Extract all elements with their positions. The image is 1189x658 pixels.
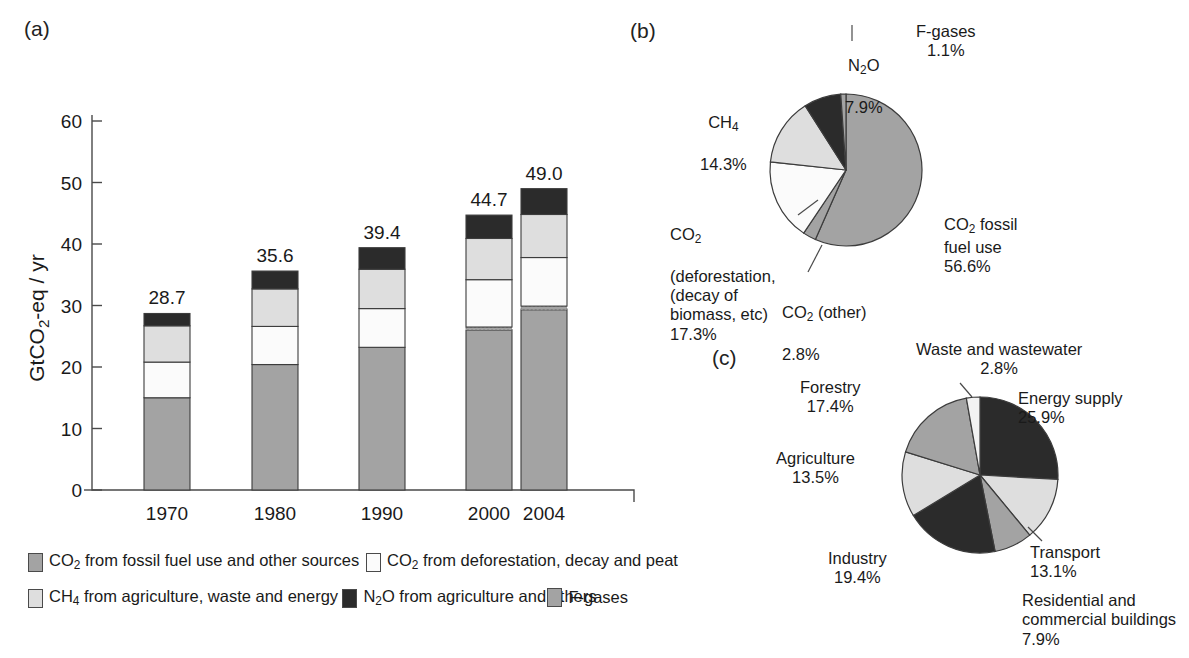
- legend-swatch-n2o: [342, 589, 357, 608]
- bar-chart-svg: 0102030405060 28.7197035.6198039.4199044…: [0, 0, 650, 540]
- y-tick-label: 40: [61, 234, 82, 255]
- bar-chart-bars: [144, 189, 567, 490]
- bar-segment: [466, 238, 512, 279]
- pie-c-label-transport: Transport 13.1%: [1030, 543, 1100, 582]
- y-tick-label: 20: [61, 357, 82, 378]
- pie-b-other-formula: CO2 (other): [782, 303, 867, 321]
- bar-total-label: 35.6: [257, 245, 294, 266]
- y-tick-label: 50: [61, 173, 82, 194]
- bar-segment: [466, 330, 512, 490]
- pie-b-defor-formula: CO2: [670, 225, 701, 243]
- bar-segment: [466, 280, 512, 327]
- leader-line-waste: [960, 383, 972, 397]
- pie-c-label-energy-supply: Energy supply 25.9%: [1018, 389, 1123, 428]
- legend-label-co2-fossil: CO2 from fossil fuel use and other sourc…: [49, 552, 359, 572]
- bar-total-label: 44.7: [471, 189, 508, 210]
- pie-c-label-industry: Industry 19.4%: [828, 549, 887, 588]
- bar-segment: [144, 362, 190, 398]
- legend-swatch-ch4: [28, 589, 43, 608]
- bar-segment: [359, 309, 405, 348]
- bar-segment: [521, 306, 567, 310]
- pie-c-label-residential: Residential and commercial buildings 7.9…: [1022, 591, 1176, 649]
- legend-item-ch4: CH4 from agriculture, waste and energy: [28, 588, 342, 608]
- pie-b-defor-rest: (deforestation, (decay of biomass, etc) …: [670, 267, 775, 343]
- bar-total-label: 28.7: [149, 287, 186, 308]
- pie-b-n2o-pct: 7.9%: [845, 98, 883, 116]
- x-tick-label: 1990: [361, 503, 403, 524]
- panel-label-c: (c): [712, 346, 737, 370]
- legend-label-fgases: F-gases: [568, 589, 628, 606]
- stacked-bar-chart: 0102030405060 28.7197035.6198039.4199044…: [0, 0, 650, 540]
- legend-item-co2-deforestation: CO2 from deforestation, decay and peat: [366, 552, 626, 572]
- bar-segment: [252, 271, 298, 289]
- pie-b-label-co2-fossil: CO2 fossil fuel use 56.6%: [944, 196, 1018, 276]
- pie-c-label-waste: Waste and wastewater 2.8%: [916, 340, 1082, 379]
- x-tick-label: 1970: [146, 503, 188, 524]
- legend-item-n2o: N2O from agriculture and others: [342, 588, 547, 608]
- pie-b-ch4-formula: CH4: [708, 113, 738, 131]
- pie-b-label-deforestation: CO2 (deforestation, (decay of biomass, e…: [670, 206, 775, 344]
- chart-legend: CO2 from fossil fuel use and other sourc…: [28, 552, 628, 624]
- legend-swatch-fgases: [547, 588, 562, 607]
- y-tick-label: 30: [61, 296, 82, 317]
- pie-b-ch4-pct: 14.3%: [700, 155, 747, 173]
- legend-item-fgases: F-gases: [547, 588, 628, 607]
- pie-b-other-pct: 2.8%: [782, 345, 820, 363]
- legend-label-ch4: CH4 from agriculture, waste and energy: [49, 588, 338, 608]
- bar-segment: [144, 398, 190, 490]
- x-tick-label: 1980: [254, 503, 296, 524]
- leader-line-co2-other: [808, 245, 822, 272]
- x-tick-label: 2000: [468, 503, 510, 524]
- bar-segment: [521, 310, 567, 490]
- bar-segment: [252, 326, 298, 364]
- bar-segment: [359, 248, 405, 270]
- legend-swatch-co2-deforestation: [366, 553, 381, 572]
- y-tick-label: 60: [61, 111, 82, 132]
- pie-b-fossil-formula: CO2 fossil fuel use 56.6%: [944, 215, 1018, 275]
- legend-row: CO2 from fossil fuel use and other sourc…: [28, 552, 628, 588]
- legend-label-co2-deforestation: CO2 from deforestation, decay and peat: [387, 552, 678, 572]
- bar-segment: [144, 313, 190, 325]
- x-tick-label: 2004: [523, 503, 566, 524]
- pie-b-label-co2-other: CO2 (other) 2.8%: [782, 284, 867, 364]
- pie-b-n2o-formula: N2O: [848, 56, 879, 74]
- bar-segment: [521, 214, 567, 257]
- pie-b-label-ch4: CH4 14.3%: [700, 94, 747, 174]
- pie-c-label-forestry: Forestry 17.4%: [800, 378, 861, 417]
- pie-c-label-agriculture: Agriculture 13.5%: [776, 449, 855, 488]
- y-axis-title: GtCO2-eq / yr: [25, 254, 52, 381]
- bar-segment: [252, 365, 298, 490]
- pie-b-label-fgases: F-gases 1.1%: [916, 22, 976, 61]
- legend-swatch-co2-fossil: [28, 553, 43, 572]
- bar-segment: [521, 189, 567, 215]
- bar-total-label: 49.0: [526, 163, 563, 184]
- bar-segment: [359, 347, 405, 490]
- bar-total-label: 39.4: [364, 222, 401, 243]
- bar-segment: [359, 269, 405, 308]
- bar-segment: [521, 258, 567, 307]
- pie-b-label-n2o: N2O 7.9%: [845, 37, 883, 117]
- y-tick-label: 10: [61, 419, 82, 440]
- legend-row: CH4 from agriculture, waste and energy N…: [28, 588, 628, 624]
- bar-segment: [144, 326, 190, 362]
- bar-segment: [466, 215, 512, 238]
- bar-segment: [252, 289, 298, 327]
- legend-item-co2-fossil: CO2 from fossil fuel use and other sourc…: [28, 552, 366, 572]
- y-tick-label: 0: [71, 480, 82, 501]
